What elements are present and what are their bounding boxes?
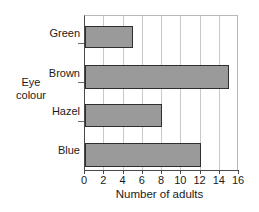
y-axis-title: Eye colour	[2, 76, 60, 101]
bar-green	[85, 26, 133, 48]
category-label-brown: Brown	[18, 67, 80, 79]
y-minor-tick-2	[78, 82, 84, 83]
bar-chart: Eye colour Green Brown Hazel Blue 0 2 4 …	[0, 0, 259, 212]
category-label-blue: Blue	[18, 144, 80, 156]
y-axis-title-line-2: colour	[2, 89, 60, 102]
bar-brown	[85, 65, 229, 89]
x-tick-label-16: 16	[226, 174, 250, 187]
y-minor-tick-3	[78, 121, 84, 122]
category-label-green: Green	[18, 27, 80, 39]
x-axis-title: Number of adults	[60, 188, 259, 201]
plot-area	[84, 15, 238, 170]
gridline-14	[219, 16, 220, 170]
category-label-hazel: Hazel	[18, 105, 80, 117]
bar-hazel	[85, 104, 162, 127]
bar-blue	[85, 143, 201, 167]
y-minor-tick-1	[78, 43, 84, 44]
